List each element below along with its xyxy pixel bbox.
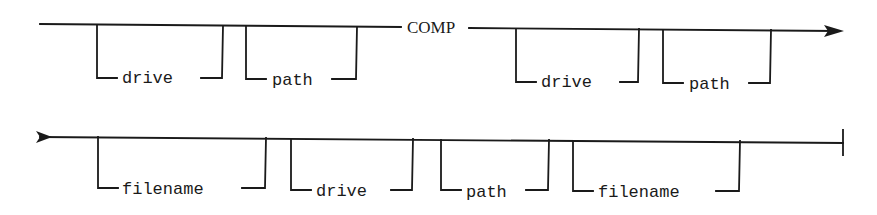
optional-path-1: path (246, 26, 357, 90)
optional-filename-1: filename (98, 137, 266, 199)
optional-filename-2: filename (573, 141, 740, 202)
param-drive: drive (122, 69, 173, 88)
optional-path-2: path (663, 30, 771, 94)
param-filename: filename (598, 183, 680, 202)
optional-drive-2: drive (516, 29, 639, 92)
param-filename: filename (122, 180, 204, 199)
keyword-comp: COMP (407, 18, 455, 37)
param-path: path (272, 71, 313, 90)
param-drive: drive (316, 182, 367, 201)
row1-mainline-left (40, 24, 401, 27)
syntax-diagram: COMP drive path drive path filename driv… (0, 0, 877, 215)
param-path: path (466, 183, 507, 202)
optional-path-3: path (441, 140, 549, 202)
optional-drive-1: drive (97, 25, 223, 88)
param-path: path (689, 75, 730, 94)
param-drive: drive (541, 73, 592, 92)
row1-mainline-right (469, 28, 835, 31)
optional-drive-3: drive (291, 139, 413, 201)
